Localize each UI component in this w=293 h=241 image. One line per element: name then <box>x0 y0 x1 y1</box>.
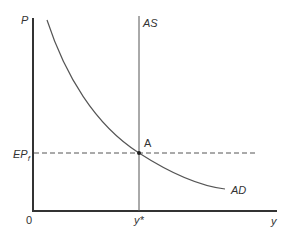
y-axis-label: P <box>21 14 29 26</box>
x-axis-label: y <box>270 215 278 227</box>
equilibrium-point-a <box>137 151 141 155</box>
ad-as-diagram: P AS A AD EPf 0 y* y <box>0 0 293 241</box>
as-label: AS <box>142 17 158 29</box>
origin-label: 0 <box>26 214 32 226</box>
y-star-label: y* <box>133 214 145 226</box>
ad-curve <box>47 20 225 189</box>
point-a-label: A <box>144 137 152 149</box>
ep-f-label: EPf <box>13 148 31 163</box>
ad-label: AD <box>230 184 246 196</box>
